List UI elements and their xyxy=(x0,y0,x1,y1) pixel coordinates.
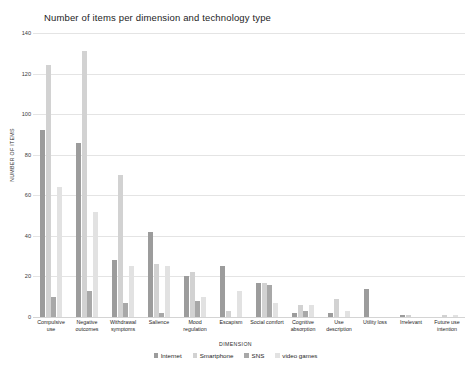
bar xyxy=(273,303,278,317)
y-tick-label: 0 xyxy=(5,314,31,320)
legend-label: video games xyxy=(282,352,317,359)
bar xyxy=(292,313,297,317)
bar xyxy=(154,264,159,317)
x-axis-title: DIMENSION xyxy=(0,341,471,347)
bar xyxy=(82,51,87,317)
bar xyxy=(237,291,242,317)
bar xyxy=(93,212,98,317)
bar-group xyxy=(105,33,141,317)
legend-label: Smartphone xyxy=(200,352,234,359)
bar xyxy=(400,315,405,317)
bar xyxy=(129,266,134,317)
legend-label: SNS xyxy=(252,352,265,359)
bar xyxy=(262,283,267,317)
bars-layer xyxy=(33,33,465,317)
bar-group xyxy=(393,33,429,317)
y-tick-label: 20 xyxy=(5,273,31,279)
bar-group xyxy=(321,33,357,317)
bar-group xyxy=(285,33,321,317)
y-tick-label: 40 xyxy=(5,233,31,239)
bar xyxy=(345,311,350,317)
bar xyxy=(220,266,225,317)
bar xyxy=(298,305,303,317)
bar xyxy=(453,315,458,317)
bar xyxy=(51,297,56,317)
bar xyxy=(267,285,272,317)
legend-item[interactable]: SNS xyxy=(244,352,264,359)
bar xyxy=(148,232,153,317)
bar-chart: Number of items per dimension and techno… xyxy=(0,0,471,382)
bar xyxy=(190,272,195,317)
plot-area xyxy=(33,33,465,317)
bar xyxy=(442,315,447,317)
chart-title: Number of items per dimension and techno… xyxy=(44,12,271,23)
bar xyxy=(364,289,369,317)
legend-item[interactable]: video games xyxy=(275,352,317,359)
bar xyxy=(112,260,117,317)
legend-label: Internet xyxy=(161,352,182,359)
bar xyxy=(76,143,81,317)
bar xyxy=(184,276,189,317)
bar-group xyxy=(33,33,69,317)
bar xyxy=(40,130,45,317)
bar-group xyxy=(429,33,465,317)
bar xyxy=(303,311,308,317)
legend-item[interactable]: Internet xyxy=(154,352,182,359)
bar-group xyxy=(177,33,213,317)
bar-group xyxy=(141,33,177,317)
y-tick-label: 120 xyxy=(5,71,31,77)
legend-swatch-icon xyxy=(275,353,280,358)
bar xyxy=(118,175,123,317)
bar xyxy=(406,315,411,317)
bar xyxy=(309,305,314,317)
bar-group xyxy=(249,33,285,317)
legend-swatch-icon xyxy=(154,353,159,358)
y-tick-label: 140 xyxy=(5,30,31,36)
bar xyxy=(226,311,231,317)
bar xyxy=(328,313,333,317)
legend-swatch-icon xyxy=(244,353,249,358)
bar xyxy=(256,283,261,317)
bar xyxy=(201,297,206,317)
bar xyxy=(87,291,92,317)
bar xyxy=(159,313,164,317)
bar xyxy=(123,303,128,317)
y-axis-tick-labels: 020406080100120140 xyxy=(0,33,31,317)
legend-swatch-icon xyxy=(193,353,198,358)
y-axis-title: NUMBER OF ITEMS xyxy=(9,95,15,215)
bar-group xyxy=(213,33,249,317)
bar-group xyxy=(357,33,393,317)
bar xyxy=(334,299,339,317)
bar xyxy=(46,65,51,317)
legend-item[interactable]: Smartphone xyxy=(193,352,234,359)
gridline-0 xyxy=(33,317,465,318)
bar xyxy=(57,187,62,317)
bar-group xyxy=(69,33,105,317)
chart-legend: InternetSmartphoneSNSvideo games xyxy=(0,352,471,359)
bar xyxy=(165,266,170,317)
bar xyxy=(195,301,200,317)
